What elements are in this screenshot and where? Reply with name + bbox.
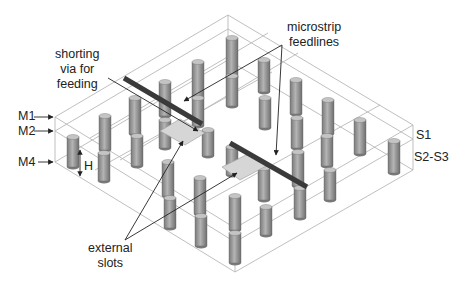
via-pillar xyxy=(260,205,272,238)
via-pillar xyxy=(229,231,241,266)
via-pillar xyxy=(258,58,270,95)
s1-label: S1 xyxy=(416,128,431,143)
via-pillar xyxy=(192,60,204,101)
via-pillar xyxy=(195,214,207,249)
via-pillar xyxy=(388,139,400,176)
via-pillar xyxy=(294,186,306,221)
via-pillar xyxy=(131,134,143,169)
substrate-structure-diagram xyxy=(0,0,463,290)
s2-s3-label: S2-S3 xyxy=(414,150,449,165)
m4-label: M4 xyxy=(18,155,35,170)
m2-label: M2 xyxy=(18,124,35,139)
microstrip-label: microstrip feedlines xyxy=(287,20,341,50)
height-label: H xyxy=(84,159,93,174)
via-pillar xyxy=(258,166,270,203)
via-pillar xyxy=(324,168,336,203)
via-pillar xyxy=(162,160,174,199)
via-pillar xyxy=(98,151,110,184)
external-slots-label: external slots xyxy=(88,241,132,271)
via-pillar xyxy=(291,116,303,151)
via-pillar xyxy=(67,135,79,170)
via-pillar xyxy=(322,98,334,137)
microstrip-leader-2 xyxy=(276,45,282,155)
via-pillar xyxy=(290,78,302,117)
via-pillars xyxy=(67,36,400,266)
slot-leader-2 xyxy=(125,173,237,240)
via-pillar xyxy=(354,118,366,157)
via-pillar xyxy=(321,134,333,169)
via-pillar xyxy=(99,114,111,153)
shorting-via-label: shorting via for feeding xyxy=(55,47,99,92)
via-pillar xyxy=(259,96,271,131)
via-pillar xyxy=(226,74,238,109)
m1-label: M1 xyxy=(18,109,35,124)
via-pillar xyxy=(129,96,141,137)
via-pillar xyxy=(229,194,241,233)
via-pillar xyxy=(194,176,206,217)
